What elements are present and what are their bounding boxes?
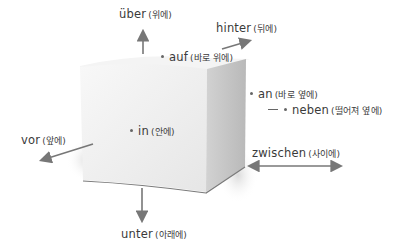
label-an: an(바로 옆에) — [250, 87, 318, 101]
dot-marker-icon — [284, 108, 287, 111]
label-auf-de: auf — [169, 50, 188, 64]
label-in: in(안에) — [130, 124, 175, 138]
label-hinter: hinter(뒤에) — [216, 21, 277, 35]
label-hinter-ko: (뒤에) — [253, 24, 277, 34]
label-hinter-de: hinter — [216, 21, 251, 35]
cube-illustration — [0, 0, 397, 250]
label-unter: unter(아래에) — [121, 227, 187, 241]
label-auf-ko: (바로 위에) — [190, 53, 233, 63]
dot-marker-icon — [250, 92, 253, 95]
label-ueber-de: über — [119, 7, 146, 21]
arrow-back-icon — [222, 41, 249, 49]
dot-marker-icon — [130, 129, 133, 132]
label-unter-de: unter — [121, 227, 153, 241]
dot-marker-icon — [161, 55, 164, 58]
label-unter-ko: (아래에) — [155, 230, 187, 240]
preposition-diagram: über(위에) hinter(뒤에) auf(바로 위에) an(바로 옆에)… — [0, 0, 397, 250]
label-zwischen: zwischen(사이에) — [252, 146, 340, 160]
label-vor-de: vor — [21, 133, 40, 147]
label-in-de: in — [138, 124, 149, 138]
dash-marker-icon — [268, 109, 278, 110]
label-zwischen-ko: (사이에) — [308, 149, 340, 159]
label-auf: auf(바로 위에) — [161, 50, 233, 64]
label-in-ko: (안에) — [151, 127, 175, 137]
label-neben-ko: (떨어져 옆에) — [331, 106, 382, 116]
label-neben: neben(떨어져 옆에) — [268, 103, 383, 117]
label-vor-ko: (앞에) — [42, 136, 66, 146]
label-neben-de: neben — [292, 103, 329, 117]
label-an-ko: (바로 옆에) — [275, 90, 318, 100]
label-zwischen-de: zwischen — [252, 146, 306, 160]
label-ueber: über(위에) — [119, 7, 172, 21]
label-ueber-ko: (위에) — [148, 10, 172, 20]
label-an-de: an — [258, 87, 273, 101]
label-vor: vor(앞에) — [21, 133, 66, 147]
